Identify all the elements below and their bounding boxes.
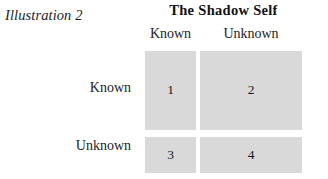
row-label-column: Known Unknown	[0, 0, 138, 179]
quadrant-cell-1-value: 1	[167, 82, 174, 98]
quadrant-cell-2-value: 2	[248, 82, 255, 98]
column-header-unknown: Unknown	[200, 26, 302, 42]
quadrant-grid: 1 2 3 4	[145, 51, 302, 173]
row-label-known: Known	[90, 80, 131, 96]
row-label-unknown: Unknown	[76, 138, 131, 154]
illustration-figure: Illustration 2 The Shadow Self Known Unk…	[0, 0, 328, 179]
quadrant-cell-3: 3	[145, 137, 196, 173]
quadrant-cell-1: 1	[145, 51, 196, 130]
column-header-known: Known	[145, 26, 196, 42]
quadrant-cell-2: 2	[200, 51, 302, 130]
matrix-title: The Shadow Self	[145, 2, 302, 19]
column-header-row: Known Unknown	[145, 26, 302, 46]
quadrant-cell-3-value: 3	[167, 147, 174, 163]
quadrant-cell-4-value: 4	[248, 147, 255, 163]
quadrant-cell-4: 4	[200, 137, 302, 173]
